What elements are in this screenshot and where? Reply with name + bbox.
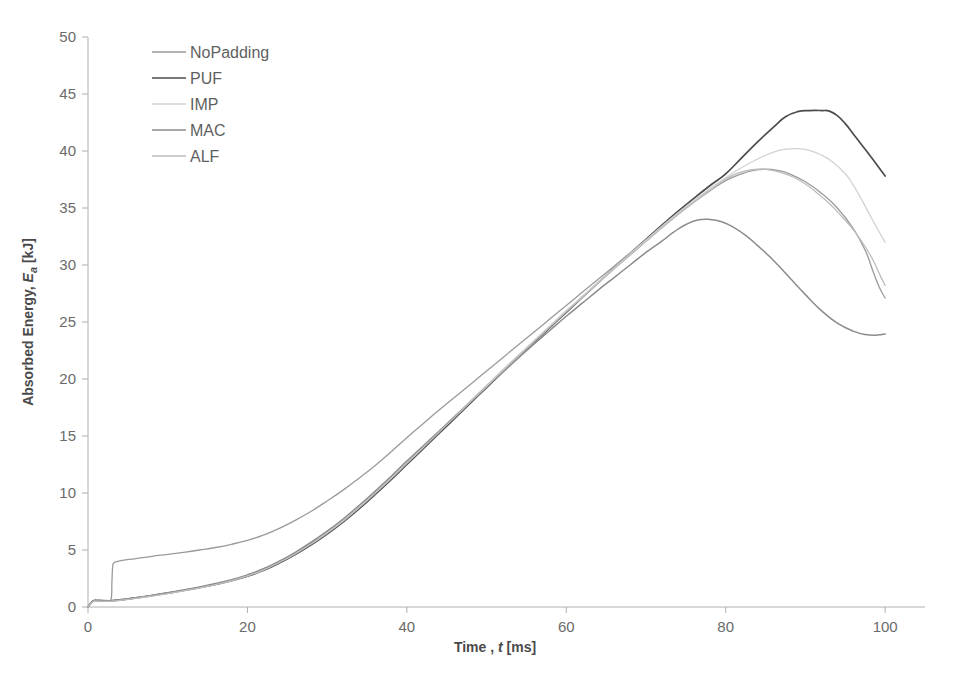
y-tick-label: 40 [59, 142, 76, 159]
legend-label-mac: MAC [190, 122, 226, 139]
legend-label-alf: ALF [190, 148, 220, 165]
x-tick-label: 0 [84, 618, 92, 635]
y-tick-label: 20 [59, 370, 76, 387]
y-tick-label: 30 [59, 256, 76, 273]
absorbed-energy-line-chart: 05101520253035404550 020406080100 NoPadd… [0, 0, 960, 687]
y-tick-label: 45 [59, 85, 76, 102]
x-tick-label: 40 [399, 618, 416, 635]
y-tick-label: 5 [68, 541, 76, 558]
legend-label-imp: IMP [190, 96, 218, 113]
x-tick-label: 60 [558, 618, 575, 635]
chart-figure: 05101520253035404550 020406080100 NoPadd… [0, 0, 960, 687]
x-tick-label: 100 [873, 618, 898, 635]
y-tick-label: 10 [59, 484, 76, 501]
chart-background [0, 0, 960, 687]
y-tick-label: 25 [59, 313, 76, 330]
x-tick-label: 80 [717, 618, 734, 635]
x-tick-label: 20 [239, 618, 256, 635]
y-tick-label: 0 [68, 598, 76, 615]
legend-label-puf: PUF [190, 70, 222, 87]
y-tick-label: 50 [59, 28, 76, 45]
y-tick-label: 35 [59, 199, 76, 216]
x-axis-title: Time , t [ms] [454, 639, 536, 655]
legend-label-nopadding: NoPadding [190, 44, 269, 61]
y-tick-label: 15 [59, 427, 76, 444]
